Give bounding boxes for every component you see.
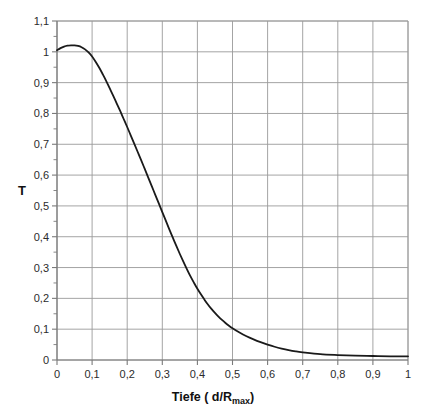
chart-plot-svg bbox=[0, 0, 427, 418]
x-axis-tick-label: 0,1 bbox=[84, 369, 99, 380]
y-axis-tick-label: 0,4 bbox=[10, 231, 49, 242]
axis-ticks-group bbox=[52, 21, 408, 365]
y-axis-tick-label: 0,1 bbox=[10, 324, 49, 335]
y-axis-tick-label: 0 bbox=[10, 355, 49, 366]
y-axis-tick-label: 1,1 bbox=[10, 16, 49, 27]
x-axis-title-tail: ) bbox=[250, 390, 254, 404]
x-axis-tick-label: 0,9 bbox=[365, 369, 380, 380]
x-axis-tick-label: 0,7 bbox=[295, 369, 310, 380]
y-axis-tick-label: 0,8 bbox=[10, 108, 49, 119]
y-axis-tick-label: 0,2 bbox=[10, 293, 49, 304]
y-axis-title: T bbox=[18, 183, 26, 198]
y-axis-tick-label: 0,9 bbox=[10, 77, 49, 88]
x-axis-tick-label: 0,3 bbox=[155, 369, 170, 380]
x-axis-tick-label: 0,5 bbox=[225, 369, 240, 380]
y-axis-tick-label: 1 bbox=[10, 46, 49, 57]
chart-container: 00,10,20,30,40,50,60,70,80,911,100,10,20… bbox=[0, 0, 427, 418]
x-axis-tick-label: 0,2 bbox=[120, 369, 135, 380]
x-axis-tick-label: 1 bbox=[405, 369, 411, 380]
x-axis-tick-label: 0,6 bbox=[260, 369, 275, 380]
y-axis-tick-label: 0,7 bbox=[10, 139, 49, 150]
x-axis-title: Tiefe ( d/Rmax) bbox=[172, 390, 254, 404]
x-axis-title-subscript: max bbox=[232, 396, 250, 406]
y-axis-tick-label: 0,6 bbox=[10, 170, 49, 181]
y-axis-tick-label: 0,5 bbox=[10, 200, 49, 211]
x-axis-title-main: Tiefe ( d/R bbox=[172, 390, 232, 404]
x-axis-tick-label: 0 bbox=[54, 369, 60, 380]
y-axis-tick-label: 0,3 bbox=[10, 262, 49, 273]
x-axis-tick-label: 0,4 bbox=[190, 369, 205, 380]
x-axis-tick-label: 0,8 bbox=[330, 369, 345, 380]
major-gridlines-group bbox=[57, 21, 408, 360]
